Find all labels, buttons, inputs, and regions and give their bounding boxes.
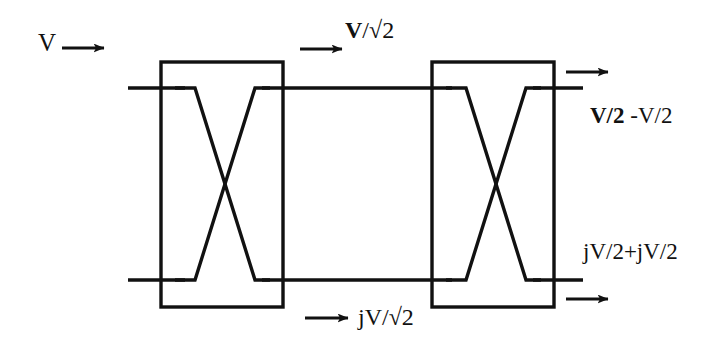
coupler-right-cross-up [446, 88, 541, 280]
label-output-top-first: V/2 [590, 103, 625, 128]
label-upper-branch: V/√2 [345, 18, 394, 42]
coupler-right-cross-down [446, 88, 541, 280]
coupler-left-cross-up [175, 88, 270, 280]
coupler-left-body [161, 62, 283, 307]
schematic-drawing [0, 0, 712, 345]
label-lower-branch-radical: √2 [389, 304, 414, 330]
coupler-schematic-figure: V V/√2 jV/√2 V/2 -V/2 jV/2+jV/2 [0, 0, 712, 345]
coupler-right-outline [432, 62, 554, 307]
label-lower-branch: jV/√2 [358, 305, 414, 329]
label-output-bottom: jV/2+jV/2 [583, 240, 678, 263]
label-lower-branch-separator: / [382, 304, 389, 330]
label-upper-branch-radical: √2 [369, 17, 394, 43]
label-upper-branch-separator: / [362, 17, 369, 43]
label-lower-branch-numerator: jV [358, 304, 382, 330]
label-upper-branch-numerator: V [345, 17, 362, 43]
coupler-left-cross-down [175, 88, 270, 280]
label-input-voltage: V [38, 30, 56, 55]
label-output-top-second: -V/2 [630, 103, 672, 128]
coupler-left-outline [161, 62, 283, 307]
label-output-top: V/2 -V/2 [590, 104, 672, 127]
coupler-right-body [432, 62, 554, 307]
